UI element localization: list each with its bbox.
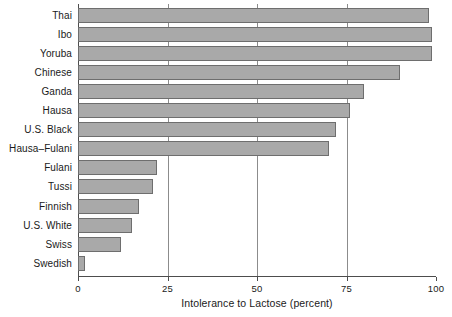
- bar-rect: [78, 160, 157, 175]
- x-tick-mark: [436, 277, 437, 281]
- bar-rect: [78, 27, 432, 42]
- bar-rect: [78, 218, 132, 233]
- x-tick-label: 50: [252, 283, 263, 294]
- bar-rect: [78, 141, 329, 156]
- bar-rect: [78, 256, 85, 271]
- x-tick-label: 100: [428, 283, 444, 294]
- category-label: Chinese: [0, 67, 72, 78]
- category-label: Ganda: [0, 86, 72, 97]
- bar-rect: [78, 84, 364, 99]
- bar-yoruba: [78, 46, 432, 61]
- bar-hausa-fulani: [78, 141, 329, 156]
- bar-u-s-black: [78, 122, 336, 137]
- bar-ibo: [78, 27, 432, 42]
- bar-rect: [78, 65, 400, 80]
- x-tick-mark: [78, 277, 79, 281]
- bar-rect: [78, 199, 139, 214]
- y-axis-line: [78, 4, 79, 276]
- bar-thai: [78, 8, 429, 23]
- bar-hausa: [78, 103, 350, 118]
- category-label: Fulani: [0, 162, 72, 173]
- bar-rect: [78, 46, 432, 61]
- bar-tussi: [78, 179, 153, 194]
- category-label: U.S. White: [0, 220, 72, 231]
- category-label: Finnish: [0, 201, 72, 212]
- bar-ganda: [78, 84, 364, 99]
- bar-u-s-white: [78, 218, 132, 233]
- category-label: Hausa–Fulani: [0, 143, 72, 154]
- x-tick-label: 75: [341, 283, 352, 294]
- x-tick-mark: [168, 277, 169, 281]
- category-label: U.S. Black: [0, 124, 72, 135]
- category-label: Hausa: [0, 105, 72, 116]
- bar-rect: [78, 8, 429, 23]
- x-tick-label: 0: [75, 283, 80, 294]
- x-axis-title: Intolerance to Lactose (percent): [78, 297, 436, 309]
- category-label: Tussi: [0, 181, 72, 192]
- category-label: Swiss: [0, 239, 72, 250]
- x-tick-mark: [257, 277, 258, 281]
- x-tick-label: 25: [162, 283, 173, 294]
- bar-finnish: [78, 199, 139, 214]
- category-label: Thai: [0, 10, 72, 21]
- gridline-25: [168, 4, 169, 276]
- bar-rect: [78, 103, 350, 118]
- bar-rect: [78, 122, 336, 137]
- bar-rect: [78, 237, 121, 252]
- bar-chinese: [78, 65, 400, 80]
- category-label: Swedish: [0, 258, 72, 269]
- bar-fulani: [78, 160, 157, 175]
- category-label: Yoruba: [0, 48, 72, 59]
- bar-swiss: [78, 237, 121, 252]
- category-label: Ibo: [0, 29, 72, 40]
- gridline-50: [257, 4, 258, 276]
- bar-rect: [78, 179, 153, 194]
- lactose-intolerance-bar-chart: ThaiIboYorubaChineseGandaHausaU.S. Black…: [0, 0, 452, 317]
- gridline-75: [347, 4, 348, 276]
- bar-swedish: [78, 256, 85, 271]
- x-tick-mark: [347, 277, 348, 281]
